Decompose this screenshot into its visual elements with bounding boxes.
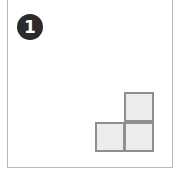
shape-cell-top-right: [124, 92, 154, 122]
shape-cell-bottom-left: [95, 122, 125, 152]
shape-cell-bottom-right: [124, 122, 154, 152]
panel-number-badge: 1: [17, 14, 43, 40]
